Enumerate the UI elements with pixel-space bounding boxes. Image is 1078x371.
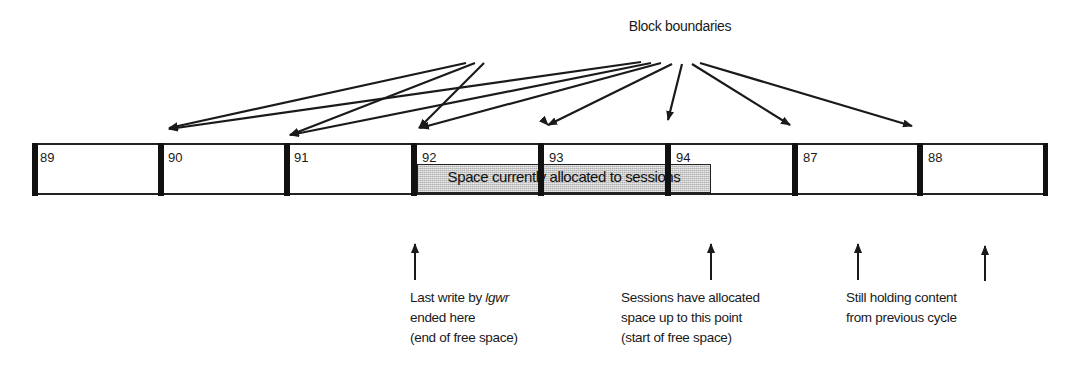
arrow-to-boundary-91 — [290, 63, 651, 135]
arrow-to-boundary-93-placeholder — [490, 64, 548, 125]
block-label-90: 90 — [168, 150, 182, 165]
block-label-94: 94 — [676, 150, 690, 165]
arrow-to-boundary-94 — [668, 64, 682, 120]
allocated-space-label: Space currently allocated to sessions — [417, 168, 711, 185]
arrow-to-boundary-90 — [169, 63, 466, 128]
arrow-to-boundary-88 — [700, 63, 912, 126]
annotation-text: Last write by — [410, 290, 485, 305]
annotation-text: space up to this point — [621, 308, 760, 328]
block-label-93: 93 — [549, 150, 563, 165]
lgwr-term: lgwr — [485, 290, 509, 305]
annotation-previous-cycle: Still holding content from previous cycl… — [846, 288, 957, 328]
block-boundary-88 — [917, 143, 923, 196]
block-boundary-arrows — [169, 63, 548, 135]
annotation-text: Still holding content — [846, 288, 957, 308]
arrow-to-boundary-90 — [169, 62, 641, 129]
block-label-92: 92 — [422, 150, 436, 165]
annotation-text: ended here — [410, 308, 518, 328]
bar-right-end — [1043, 143, 1048, 196]
annotation-end-of-free-space: Last write by lgwr ended here (end of fr… — [410, 288, 518, 348]
annotation-text: from previous cycle — [846, 308, 957, 328]
block-boundary-89 — [32, 143, 38, 196]
block-label-89: 89 — [40, 150, 54, 165]
annotation-text: (start of free space) — [621, 328, 760, 348]
block-label-87: 87 — [803, 150, 817, 165]
annotation-text: Sessions have allocated — [621, 288, 760, 308]
annotation-start-of-free-space: Sessions have allocated space up to this… — [621, 288, 760, 348]
block-boundary-91 — [284, 143, 290, 196]
block-boundary-87 — [792, 143, 798, 196]
block-label-91: 91 — [294, 150, 308, 165]
block-label-88: 88 — [928, 150, 942, 165]
pointer-arrows — [415, 244, 985, 281]
annotation-text: (end of free space) — [410, 328, 518, 348]
arrow-to-boundary-87 — [692, 64, 790, 125]
block-boundary-90 — [158, 143, 164, 196]
